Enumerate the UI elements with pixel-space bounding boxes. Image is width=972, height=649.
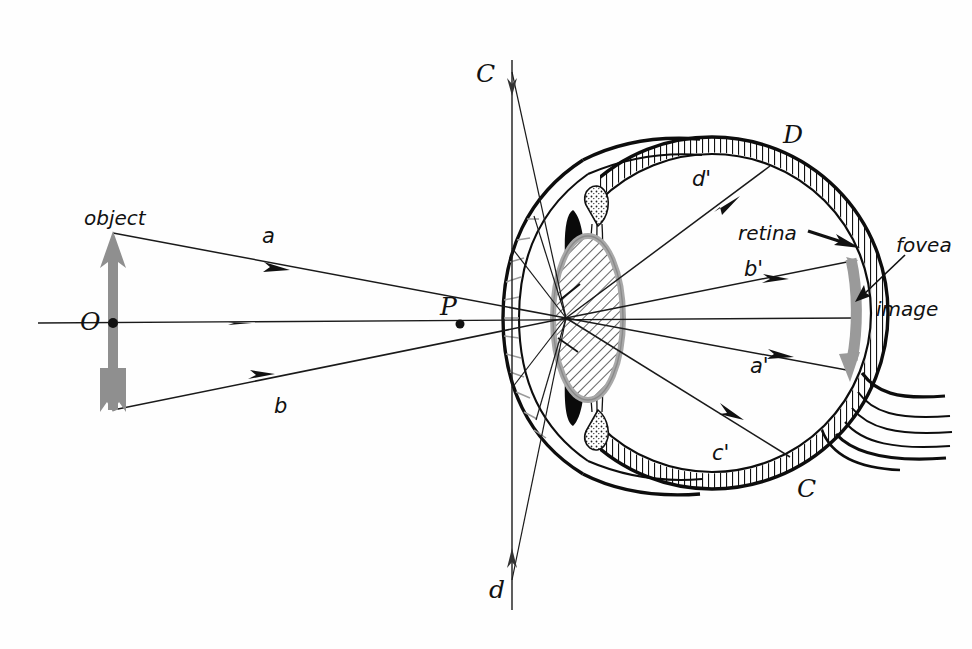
label-C-top: C <box>476 59 495 88</box>
label-ray-c-prime: c' <box>712 441 729 465</box>
label-C-bottom: C <box>797 474 816 503</box>
label-ray-d-prime: d' <box>692 167 711 191</box>
point-O-dot <box>108 318 118 328</box>
diagram-canvas: object O P C d D C a b a' b' c' d' retin… <box>0 0 972 649</box>
label-object: object <box>84 206 147 230</box>
canvas-background <box>0 0 972 649</box>
label-P: P <box>439 292 458 321</box>
label-O: O <box>80 307 101 336</box>
label-d-bottom: d <box>489 575 505 604</box>
label-ray-a-prime: a' <box>750 354 769 378</box>
label-D: D <box>782 120 803 149</box>
label-retina: retina <box>738 221 797 245</box>
eye-optics-diagram: object O P C d D C a b a' b' c' d' retin… <box>0 0 972 649</box>
label-fovea: fovea <box>896 233 952 257</box>
point-P-dot <box>456 320 465 329</box>
label-ray-b-prime: b' <box>744 257 763 281</box>
label-image: image <box>876 297 938 321</box>
object-arrow-fletching <box>100 368 126 412</box>
image-arrow-shaft <box>851 259 856 360</box>
label-ray-a: a <box>262 224 275 248</box>
label-ray-b: b <box>274 394 287 418</box>
